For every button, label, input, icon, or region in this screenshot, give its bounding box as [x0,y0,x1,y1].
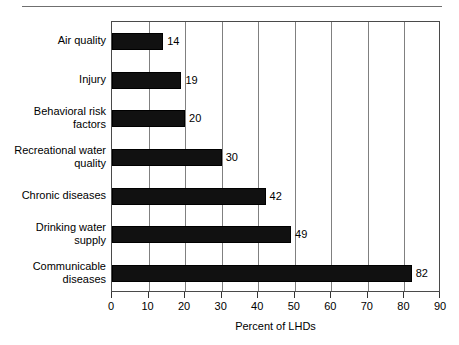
x-tick-label: 30 [215,300,227,312]
category-axis-labels: Air qualityInjuryBehavioral riskfactorsR… [0,21,106,292]
category-label: Communicablediseases [0,260,106,286]
bar-row: 30 [112,149,439,166]
category-label: Behavioral riskfactors [0,105,106,131]
category-label-line: Behavioral risk [0,105,106,118]
category-label: Chronic diseases [0,189,106,202]
bar-row: 42 [112,188,439,205]
bar[interactable] [112,226,291,243]
x-tick-label: 90 [434,300,446,312]
x-tick-0 [111,292,112,298]
bar-row: 49 [112,226,439,243]
x-tick-label: 60 [324,300,336,312]
x-tick-20 [184,292,185,298]
x-tick-30 [221,292,222,298]
category-label-line: diseases [0,273,106,286]
x-tick-70 [367,292,368,298]
x-tick-10 [148,292,149,298]
x-tick-label: 50 [288,300,300,312]
x-tick-label: 40 [251,300,263,312]
bar[interactable] [112,265,412,282]
x-tick-label: 0 [108,300,114,312]
bar-value-label: 82 [416,268,428,279]
x-tick-40 [257,292,258,298]
x-axis: 0102030405060708090 [111,292,440,322]
bar[interactable] [112,188,266,205]
category-label-line: quality [0,157,106,170]
bar-value-label: 14 [167,36,179,47]
bar-value-label: 19 [185,75,197,86]
bar-value-label: 20 [189,113,201,124]
category-label-line: Injury [0,73,106,86]
category-label-line: Air quality [0,34,106,47]
category-label-line: supply [0,234,106,247]
bar[interactable] [112,149,222,166]
plot-area: 14192030424982 [111,21,440,292]
category-label: Recreational waterquality [0,144,106,170]
x-tick-label: 70 [361,300,373,312]
bar-row: 19 [112,72,439,89]
bar-row: 14 [112,33,439,50]
category-label: Air quality [0,34,106,47]
x-tick-label: 10 [141,300,153,312]
x-axis-title: Percent of LHDs [111,320,440,333]
x-tick-label: 20 [178,300,190,312]
x-tick-90 [439,292,440,298]
bars-group: 14192030424982 [112,22,439,291]
x-tick-label: 80 [397,300,409,312]
category-label-line: Drinking water [0,221,106,234]
x-tick-80 [403,292,404,298]
bar-row: 20 [112,110,439,127]
category-label: Injury [0,73,106,86]
bar[interactable] [112,110,185,127]
x-tick-60 [330,292,331,298]
bar-row: 82 [112,265,439,282]
category-label-line: factors [0,118,106,131]
bar[interactable] [112,72,181,89]
bar-value-label: 30 [226,152,238,163]
x-tick-50 [294,292,295,298]
bar[interactable] [112,33,163,50]
category-label: Drinking watersupply [0,221,106,247]
horizontal-bar-chart: Air qualityInjuryBehavioral riskfactorsR… [0,0,459,345]
category-label-line: Chronic diseases [0,189,106,202]
bar-value-label: 49 [295,229,307,240]
category-label-line: Recreational water [0,144,106,157]
bar-value-label: 42 [270,191,282,202]
category-label-line: Communicable [0,260,106,273]
